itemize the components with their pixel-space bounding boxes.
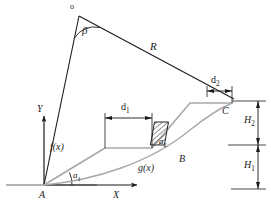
h2-subscript: 2 — [251, 120, 255, 128]
line-o-to-A — [44, 16, 79, 185]
label-point-A: A — [39, 190, 45, 200]
label-axis-Y: Y — [37, 104, 43, 114]
h1-subscript: 1 — [251, 165, 255, 173]
label-radius-R: R — [150, 41, 157, 52]
label-point-C: C — [222, 106, 229, 116]
label-axis-X: X — [113, 190, 119, 200]
label-H2: H2 — [244, 115, 255, 128]
label-point-B: B — [179, 154, 185, 164]
d2-subscript: 2 — [216, 80, 220, 88]
a2-subscript: 2 — [164, 141, 167, 148]
d2-dimension — [207, 86, 232, 103]
label-f-of-x: f(x) — [50, 142, 64, 152]
label-H1: H1 — [244, 160, 255, 173]
label-d2: d2 — [211, 75, 220, 88]
d1-dimension — [105, 113, 152, 148]
label-g-of-x: g(x) — [138, 163, 154, 173]
label-beta-angle: β — [82, 25, 87, 36]
label-d1: d1 — [121, 102, 130, 115]
label-apex-o: o — [70, 3, 74, 11]
a1-angle-arc — [70, 173, 73, 186]
d1-subscript: 1 — [126, 107, 130, 115]
a1-subscript: 1 — [78, 175, 81, 182]
label-a2: a2 — [159, 137, 167, 148]
technical-diagram: o β R d2 d1 C B A H2 H1 Y X f(x) g(x) a1… — [0, 0, 271, 216]
label-a1: a1 — [73, 171, 81, 182]
